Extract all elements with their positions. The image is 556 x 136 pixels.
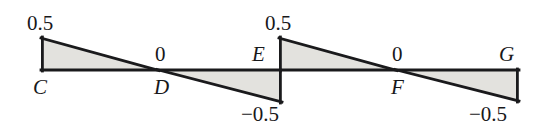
value-label-d: 0 bbox=[155, 44, 166, 65]
influence-line-diagram: 0.5 C 0 D 0.5 E −0.5 0 F G −0.5 bbox=[0, 0, 556, 136]
value-label-g-bottom: −0.5 bbox=[469, 104, 507, 125]
point-label-e: E bbox=[252, 44, 265, 65]
value-label-c-top: 0.5 bbox=[27, 13, 53, 34]
point-label-f: F bbox=[391, 77, 404, 98]
value-label-e-bottom: −0.5 bbox=[241, 104, 279, 125]
point-label-d: D bbox=[154, 77, 169, 98]
point-label-c: C bbox=[33, 77, 47, 98]
point-label-g: G bbox=[499, 44, 514, 65]
value-label-f: 0 bbox=[392, 44, 403, 65]
value-label-e-top: 0.5 bbox=[265, 13, 291, 34]
